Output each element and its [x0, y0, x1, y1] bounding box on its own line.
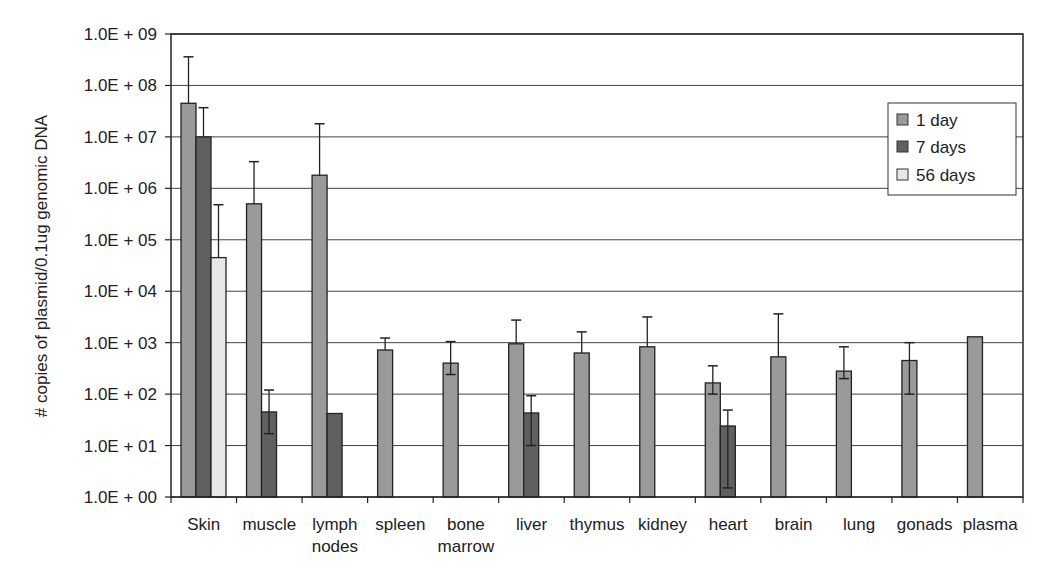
y-tick-label: 1.0E + 03	[84, 334, 157, 353]
y-tick-label: 1.0E + 02	[84, 385, 157, 404]
bar	[327, 413, 342, 497]
x-tick-label: lung	[843, 515, 875, 534]
x-tick-label: brain	[775, 515, 813, 534]
x-tick-label: marrow	[438, 537, 495, 556]
legend-swatch-7-days	[897, 141, 908, 152]
bar	[574, 353, 589, 497]
x-tick-label: gonads	[897, 515, 953, 534]
y-tick-label: 1.0E + 01	[84, 437, 157, 456]
bar	[247, 204, 262, 497]
bar	[509, 344, 524, 497]
bar	[771, 357, 786, 497]
bar	[705, 383, 720, 497]
x-tick-label: nodes	[312, 537, 358, 556]
legend-label-56-days: 56 days	[916, 166, 976, 185]
bar	[640, 347, 655, 497]
y-tick-label: 1.0E + 08	[84, 76, 157, 95]
legend-label-7-days: 7 days	[916, 138, 966, 157]
bar	[378, 350, 393, 497]
y-tick-label: 1.0E + 00	[84, 488, 157, 507]
y-tick-label: 1.0E + 07	[84, 128, 157, 147]
legend-swatch-1-day	[897, 114, 908, 125]
bar	[196, 137, 211, 497]
y-tick-label: 1.0E + 05	[84, 231, 157, 250]
bar	[836, 371, 851, 497]
y-tick-label: 1.0E + 09	[84, 25, 157, 44]
bar	[181, 103, 196, 497]
legend: 1 day 7 days 56 days	[888, 103, 1016, 195]
legend-label-1-day: 1 day	[916, 111, 958, 130]
x-tick-label: plasma	[963, 515, 1018, 534]
bar	[312, 175, 327, 497]
legend-swatch-56-days	[897, 169, 908, 180]
y-tick-label: 1.0E + 04	[84, 282, 157, 301]
bar-chart: # copies of plasmid/0.1ug genomic DNA 1.…	[0, 0, 1047, 584]
x-axis-ticks: Skinmusclelymphnodesspleenbonemarrowlive…	[171, 497, 1023, 556]
y-axis-label: # copies of plasmid/0.1ug genomic DNA	[32, 114, 51, 417]
x-tick-label: lymph	[312, 515, 357, 534]
x-tick-label: Skin	[187, 515, 220, 534]
bar	[211, 258, 226, 497]
error-bars	[184, 57, 915, 488]
x-tick-label: liver	[516, 515, 548, 534]
bar	[967, 337, 982, 497]
bars	[181, 103, 982, 497]
x-tick-label: heart	[709, 515, 748, 534]
bar	[443, 363, 458, 497]
x-tick-label: thymus	[570, 515, 625, 534]
x-tick-label: kidney	[638, 515, 688, 534]
y-axis-ticks: 1.0E + 001.0E + 011.0E + 021.0E + 031.0E…	[84, 25, 171, 507]
x-tick-label: bone	[447, 515, 485, 534]
x-tick-label: spleen	[375, 515, 425, 534]
y-tick-label: 1.0E + 06	[84, 179, 157, 198]
x-tick-label: muscle	[242, 515, 296, 534]
